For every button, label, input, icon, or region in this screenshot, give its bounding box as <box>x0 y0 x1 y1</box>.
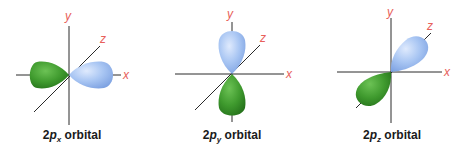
negative-lobe <box>219 74 246 116</box>
caption-text: orbital <box>61 128 101 142</box>
negative-lobe <box>30 62 69 89</box>
caption-p: p <box>49 128 56 142</box>
positive-lobe <box>219 31 246 74</box>
caption-2pz: 2pz orbital <box>363 128 421 144</box>
panel-2pz: y z x <box>337 5 451 123</box>
panel-2px: y z x <box>16 9 130 125</box>
positive-lobe <box>69 62 113 89</box>
x-axis-label: x <box>443 65 451 79</box>
y-axis-label: y <box>386 5 394 19</box>
x-axis-label: x <box>122 68 130 82</box>
positive-lobe <box>391 36 428 72</box>
caption-number: 2 <box>43 128 50 142</box>
caption-2py: 2py orbital <box>203 128 262 144</box>
caption-number: 2 <box>203 128 210 142</box>
caption-p: p <box>209 128 216 142</box>
y-axis-label: y <box>64 9 72 23</box>
z-axis-label: z <box>259 31 266 45</box>
caption-p: p <box>370 128 377 142</box>
panel-2py: y z x <box>175 7 293 122</box>
z-axis-label: z <box>426 19 433 33</box>
x-axis-label: x <box>285 67 293 81</box>
negative-lobe <box>356 72 391 106</box>
caption-text: orbital <box>221 128 261 142</box>
y-axis-label: y <box>226 7 234 21</box>
caption-number: 2 <box>363 128 370 142</box>
caption-2px: 2px orbital <box>43 128 102 144</box>
z-axis-label: z <box>99 32 106 46</box>
caption-text: orbital <box>381 128 421 142</box>
